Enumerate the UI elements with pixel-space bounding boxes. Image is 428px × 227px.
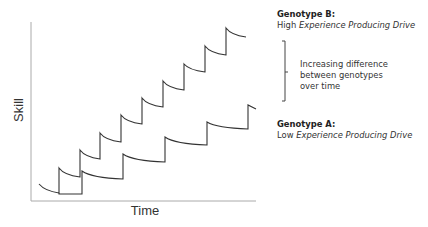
difference-bracket xyxy=(282,41,288,101)
y-axis-label: Skill xyxy=(9,95,29,125)
genotype-a-emphasis: Experience Producing Drive xyxy=(296,130,412,140)
genotype-b-title: Genotype B: xyxy=(277,9,335,19)
skill-time-chart xyxy=(0,0,428,227)
genotype-a-prefix: Low xyxy=(277,130,296,140)
genotype-b-emphasis: Experience Producing Drive xyxy=(299,20,415,30)
genotype-a-curve xyxy=(59,105,256,194)
genotype-a-title: Genotype A: xyxy=(277,119,335,129)
genotype-b-label: Genotype B: High Experience Producing Dr… xyxy=(277,9,415,31)
genotype-b-curve xyxy=(39,28,246,193)
difference-note: Increasing difference between genotypes … xyxy=(300,59,388,92)
difference-note-line-2: between genotypes xyxy=(300,70,388,81)
difference-note-line-3: over time xyxy=(300,81,388,92)
genotype-b-prefix: High xyxy=(277,20,299,30)
genotype-a-label: Genotype A: Low Experience Producing Dri… xyxy=(277,119,412,141)
x-axis-label: Time xyxy=(120,203,170,218)
difference-note-line-1: Increasing difference xyxy=(300,59,388,70)
